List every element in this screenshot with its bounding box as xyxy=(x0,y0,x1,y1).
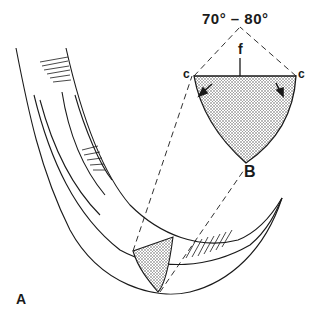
angle-label: 70° – 80° xyxy=(202,11,269,26)
label-c-left: c xyxy=(183,68,190,80)
claw-diagram: 70° – 80° f c c B A xyxy=(0,0,314,313)
label-c-right: c xyxy=(298,68,305,80)
label-f: f xyxy=(238,42,243,56)
claw-drawing xyxy=(0,0,314,313)
label-b: B xyxy=(244,164,256,180)
claw-cross-section xyxy=(133,237,173,292)
panel-label: A xyxy=(16,292,26,306)
